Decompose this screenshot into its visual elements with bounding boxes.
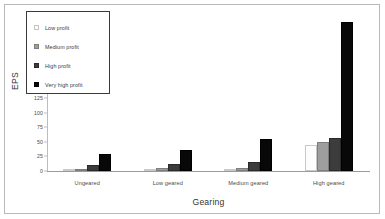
- bar-group: High geared: [289, 19, 370, 171]
- bar[interactable]: [144, 169, 156, 171]
- y-tick-label: 25: [37, 153, 43, 159]
- x-axis-line: [47, 171, 370, 172]
- bar[interactable]: [75, 169, 87, 171]
- bar-group-bars: [289, 19, 370, 171]
- x-tick-label: Medium geared: [228, 180, 268, 186]
- y-tick-label: 75: [37, 124, 43, 130]
- legend-label: Medium profit: [45, 44, 79, 50]
- bar[interactable]: [317, 142, 329, 171]
- bar[interactable]: [248, 162, 260, 171]
- legend-label: Very high profit: [45, 82, 83, 88]
- bar-group-bars: [208, 19, 289, 171]
- legend-swatch-icon: [34, 25, 39, 30]
- bar[interactable]: [260, 139, 272, 171]
- bar[interactable]: [236, 168, 248, 171]
- x-tick-label: Ungeared: [75, 180, 100, 186]
- y-axis-title: EPS: [10, 72, 20, 90]
- legend-label: Low profit: [45, 25, 69, 31]
- bar[interactable]: [180, 150, 192, 171]
- bar-group: Low geared: [128, 19, 209, 171]
- bar[interactable]: [305, 145, 317, 171]
- legend-item[interactable]: High profit: [34, 56, 109, 75]
- bar-group-bars: [128, 19, 209, 171]
- y-tick-label: 125: [34, 95, 43, 101]
- legend-item[interactable]: Very high profit: [34, 75, 109, 94]
- bar[interactable]: [168, 164, 180, 171]
- x-tick-label: Low geared: [153, 180, 183, 186]
- legend-swatch-icon: [34, 63, 39, 68]
- bar-group: Medium geared: [208, 19, 289, 171]
- chart-legend: Low profitMedium profitHigh profitVery h…: [26, 11, 110, 94]
- bar[interactable]: [99, 154, 111, 171]
- bar[interactable]: [224, 169, 236, 171]
- legend-item[interactable]: Medium profit: [34, 37, 109, 56]
- bar[interactable]: [156, 168, 168, 171]
- legend-swatch-icon: [34, 82, 39, 87]
- bar[interactable]: [341, 22, 353, 171]
- x-axis-title: Gearing: [47, 197, 370, 207]
- y-tick-label: 100: [34, 110, 43, 116]
- bar[interactable]: [87, 165, 99, 171]
- bar[interactable]: [329, 138, 341, 171]
- chart-frame: EPS 0255075100125150175200225250 Ungeare…: [4, 4, 380, 214]
- y-tick-label: 50: [37, 139, 43, 145]
- x-tick-label: High geared: [313, 180, 345, 186]
- legend-label: High profit: [45, 63, 71, 69]
- legend-item[interactable]: Low profit: [34, 18, 109, 37]
- bar[interactable]: [63, 169, 75, 171]
- legend-swatch-icon: [34, 44, 39, 49]
- y-tick-label: 0: [40, 168, 43, 174]
